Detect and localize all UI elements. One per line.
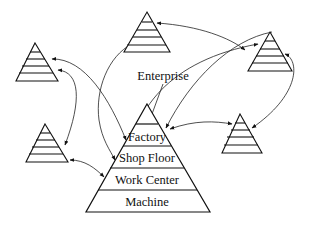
peer-pyramid-lower-left bbox=[26, 124, 68, 162]
peer-pyramid-top-right bbox=[248, 32, 292, 71]
peer-pyramid-left bbox=[16, 43, 58, 81]
arrow-factory-to-right bbox=[170, 122, 232, 129]
peer-pyramid-right bbox=[222, 114, 262, 153]
layer-factory-label: Factory bbox=[128, 130, 167, 144]
layer-work-center-label: Work Center bbox=[115, 173, 180, 187]
enterprise-label: Enterprise bbox=[137, 69, 189, 83]
peer-pyramid-top-center bbox=[124, 12, 170, 52]
enterprise-network-diagram: Enterprise Factory Shop Floor Work Cente… bbox=[0, 0, 313, 225]
arrow-top-center-to-top-right bbox=[157, 23, 245, 50]
layer-shop-floor-label: Shop Floor bbox=[119, 151, 176, 165]
arrow-lower-left-to-workcenter bbox=[70, 160, 104, 177]
arrow-left-to-lower-left bbox=[58, 70, 76, 145]
layer-machine-label: Machine bbox=[125, 195, 169, 209]
